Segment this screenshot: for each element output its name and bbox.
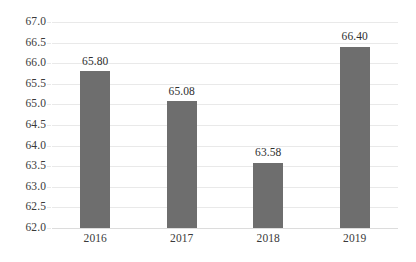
y-axis-tick-mark: [47, 166, 51, 167]
bar-2018[interactable]: [253, 163, 283, 228]
y-axis-tick-mark: [47, 84, 51, 85]
bar-2017[interactable]: [167, 101, 197, 228]
y-axis-tick-mark: [47, 228, 51, 229]
bar-value-label-2017: 65.08: [169, 86, 195, 98]
y-axis-tick-mark: [47, 43, 51, 44]
y-axis-tick-label: 63.5: [25, 160, 46, 172]
y-axis-tick-mark: [47, 104, 51, 105]
y-axis-tick-mark: [47, 125, 51, 126]
y-axis-tick-label: 65.5: [25, 78, 46, 90]
x-axis-tick-label-2017: 2017: [170, 233, 193, 245]
y-axis-tick-mark: [47, 146, 51, 147]
y-axis-tick-label: 63.0: [25, 181, 46, 193]
bar-value-label-2019: 66.40: [342, 31, 368, 43]
bar-chart: 67.066.566.065.565.064.564.063.563.062.5…: [0, 0, 416, 262]
x-axis-tick-label-2018: 2018: [257, 233, 280, 245]
y-axis-tick-label: 65.0: [25, 99, 46, 111]
bar-value-label-2016: 65.80: [82, 56, 108, 68]
bar-2016[interactable]: [80, 71, 110, 228]
y-axis-tick-label: 64.0: [25, 140, 46, 152]
x-axis-tick-label-2016: 2016: [84, 233, 107, 245]
x-axis-tick-label-2019: 2019: [343, 233, 366, 245]
y-axis: 67.066.566.065.565.064.564.063.563.062.5…: [0, 22, 46, 228]
y-axis-tick-mark: [47, 63, 51, 64]
y-axis-tick-label: 66.0: [25, 57, 46, 69]
y-axis-tick-mark: [47, 187, 51, 188]
bar-group: 63.58: [225, 22, 312, 228]
y-axis-tick-label: 64.5: [25, 119, 46, 131]
axis-baseline: [52, 228, 398, 229]
bar-2019[interactable]: [340, 47, 370, 228]
x-axis: 2016201720182019: [52, 233, 398, 253]
y-axis-tick-mark: [47, 207, 51, 208]
y-axis-tick-mark: [47, 22, 51, 23]
y-axis-tick-label: 62.0: [25, 222, 46, 234]
bars-layer: 65.8065.0863.5866.40: [52, 22, 398, 228]
bar-group: 65.80: [52, 22, 139, 228]
bar-group: 66.40: [312, 22, 399, 228]
y-axis-tick-label: 62.5: [25, 202, 46, 214]
bar-value-label-2018: 63.58: [255, 147, 281, 159]
y-axis-tick-label: 67.0: [25, 16, 46, 28]
y-axis-tick-label: 66.5: [25, 37, 46, 49]
bar-group: 65.08: [139, 22, 226, 228]
